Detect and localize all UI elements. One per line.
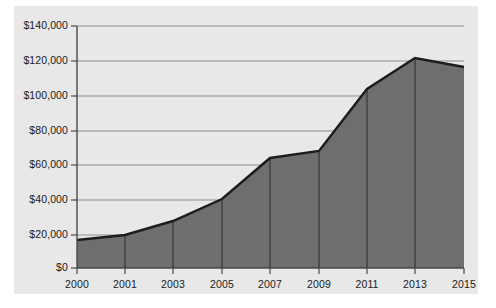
- x-tick-marks: [77, 268, 464, 274]
- x-tick-label-2009: 2009: [295, 278, 343, 290]
- x-tick-label-2001: 2001: [101, 278, 149, 290]
- x-tick-label-2007: 2007: [246, 278, 294, 290]
- x-tick-label-2013: 2013: [391, 278, 439, 290]
- x-tick-label-2011: 2011: [343, 278, 391, 290]
- y-tick-label-20000: $20,000: [2, 228, 68, 240]
- y-tick-label-60000: $60,000: [2, 158, 68, 170]
- area-chart-plot: [14, 6, 478, 294]
- y-tick-label-140000: $140,000: [2, 19, 68, 31]
- chart-figure: $140,000 $120,000 $100,000 $80,000 $60,0…: [0, 0, 496, 308]
- x-tick-label-2015: 2015: [440, 278, 488, 290]
- y-tick-marks: [71, 26, 77, 268]
- y-tick-label-40000: $40,000: [2, 193, 68, 205]
- x-tick-label-2005: 2005: [198, 278, 246, 290]
- y-tick-label-120000: $120,000: [2, 54, 68, 66]
- y-tick-label-0: $0: [2, 261, 68, 273]
- x-tick-label-2000: 2000: [53, 278, 101, 290]
- x-tick-label-2003: 2003: [149, 278, 197, 290]
- y-tick-label-80000: $80,000: [2, 124, 68, 136]
- chart-plot-panel: $140,000 $120,000 $100,000 $80,000 $60,0…: [14, 6, 478, 294]
- y-tick-label-100000: $100,000: [2, 89, 68, 101]
